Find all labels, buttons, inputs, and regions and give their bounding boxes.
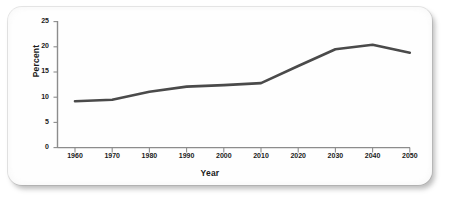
data-series-percent [75, 45, 410, 101]
x-tick-label: 1980 [129, 152, 169, 159]
x-tick-label: 2050 [390, 152, 430, 159]
x-tick-label: 1970 [92, 152, 132, 159]
y-tick-label: 5 [27, 118, 49, 125]
x-tick-label: 2020 [278, 152, 318, 159]
x-tick-label: 2000 [204, 152, 244, 159]
x-tick-label: 2010 [241, 152, 281, 159]
x-tick-label: 2030 [315, 152, 355, 159]
y-axis-title: Percent [31, 21, 41, 101]
y-tick-label: 25 [27, 17, 49, 24]
y-tick-label: 0 [27, 143, 49, 150]
y-tick-label: 20 [27, 42, 49, 49]
y-tick-label: 15 [27, 67, 49, 74]
x-tick-label: 1960 [55, 152, 95, 159]
screenshot-root: Percent Year 25 20 15 10 5 0 1960 1970 1… [0, 0, 451, 201]
x-tick-label: 2040 [353, 152, 393, 159]
y-tick-label: 10 [27, 93, 49, 100]
x-tick-label: 1990 [167, 152, 207, 159]
x-axis-title: Year [150, 168, 270, 178]
